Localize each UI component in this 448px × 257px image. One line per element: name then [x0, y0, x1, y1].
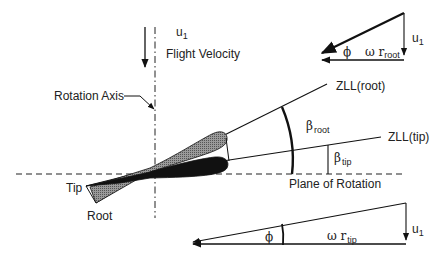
flight-velocity-label: Flight Velocity [166, 47, 240, 61]
root-phi-label: ϕ [343, 45, 351, 59]
beta-root-label: βroot [306, 119, 330, 135]
root-u1-label: u1 [412, 31, 424, 47]
beta-tip-label: βtip [334, 151, 351, 167]
beta-root-arc [282, 107, 293, 174]
tip-label: Tip [66, 181, 83, 195]
root-label: Root [87, 209, 113, 223]
tip-phi-label: ϕ [265, 230, 273, 244]
root-omega-label: ω rroot [365, 45, 400, 60]
rotation-axis-label: Rotation Axis [54, 89, 124, 103]
tip-omega-label: ω rtip [327, 229, 357, 245]
zll-root-label: ZLL(root) [336, 79, 385, 93]
u1-label: u1 [176, 25, 188, 41]
tip-velocity-triangle: ϕ ω rtip u1 [193, 203, 424, 245]
tip-u1-label: u1 [412, 222, 424, 238]
zll-tip-label: ZLL(tip) [388, 130, 429, 144]
tip-airfoil [86, 157, 228, 186]
blade-edge [226, 138, 229, 161]
plane-of-rotation-label: Plane of Rotation [289, 177, 381, 191]
blade-geometry-diagram: u1 Flight Velocity Rotation Axis ZLL(roo… [0, 0, 448, 257]
root-velocity-triangle: ϕ ω rroot u1 [322, 13, 424, 60]
rotation-axis-leader [124, 96, 154, 109]
